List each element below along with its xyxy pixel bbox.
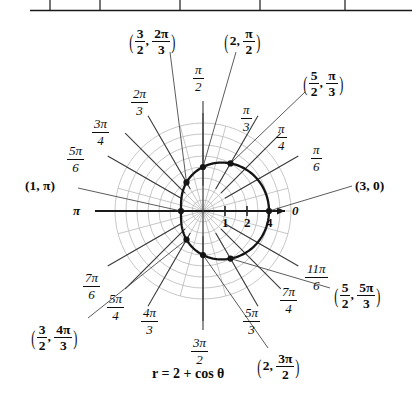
table-fragment (30, 0, 412, 11)
angle-label-3pi-over-4: 3π4 (92, 117, 109, 148)
angle-label-7pi-over-6: 7π6 (83, 271, 100, 302)
axis-label-pi: π (73, 204, 80, 217)
point-label-2-pi-2: (2, π2) (223, 26, 261, 58)
polar-axis-horizontal (95, 208, 285, 215)
angle-label-4pi-over-3: 4π3 (141, 306, 158, 337)
angle-label-pi-over-3: π3 (241, 103, 252, 134)
angle-label-5pi-over-6: 5π6 (67, 144, 84, 175)
angle-label-5pi-over-3: 5π3 (243, 306, 260, 337)
axis-label-zero: 0 (292, 204, 299, 217)
angle-label-pi-over-6: π6 (311, 143, 322, 174)
radial-tick-label-4: 4 (266, 216, 273, 229)
point-label-5-2-5pi-3: (52, 5π3) (333, 280, 382, 312)
angle-label-pi-over-4: π4 (276, 122, 287, 153)
point-label-2-3pi-2: (2, 3π2) (256, 351, 301, 383)
angle-label-7pi-over-4: 7π4 (280, 285, 297, 316)
equation-caption: r = 2 + cos θ (152, 367, 224, 381)
angle-label-2pi-over-3: 2π3 (131, 87, 148, 118)
angle-label-pi-over-2: π2 (193, 63, 204, 94)
angle-label-3pi-over-2: 3π2 (191, 336, 208, 367)
radial-tick-label-2: 2 (244, 216, 251, 229)
point-label-3-2-4pi-3: (32, 4π3) (30, 322, 79, 354)
radial-tick-label-1: 1 (222, 216, 229, 229)
point-label-5-2-pi-3: (52, π3) (302, 68, 344, 100)
angle-label-11pi-over-6: 11π6 (305, 262, 328, 293)
point-label-3-0: (3, 0) (355, 179, 384, 193)
angle-label-5pi-over-4: 5π4 (107, 292, 124, 323)
point-label-1-pi: (1, π) (25, 179, 55, 193)
point-label-3-2-2pi-3: (32, 2π3) (128, 26, 177, 58)
